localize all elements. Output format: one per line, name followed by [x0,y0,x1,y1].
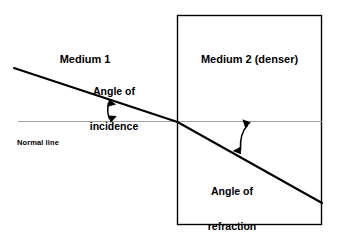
refraction-diagram: Medium 1 Medium 2 (denser) Angle of inci… [0,0,337,235]
normal-line-label-text: Normal line [17,139,107,147]
medium-2-label-text: Medium 2 (denser) [177,53,322,65]
normal-line-label: Normal line [17,122,107,164]
angle-of-refraction-label-line-2: refraction [186,221,278,233]
angle-of-incidence-label-line-1: Angle of [70,86,158,98]
medium-2-label: Medium 2 (denser) [177,28,322,90]
angle-of-refraction-label-line-1: Angle of [186,186,278,198]
angle-of-refraction-label: Angle of refraction [186,162,278,235]
angle-of-refraction-arc-arrow [240,125,247,151]
